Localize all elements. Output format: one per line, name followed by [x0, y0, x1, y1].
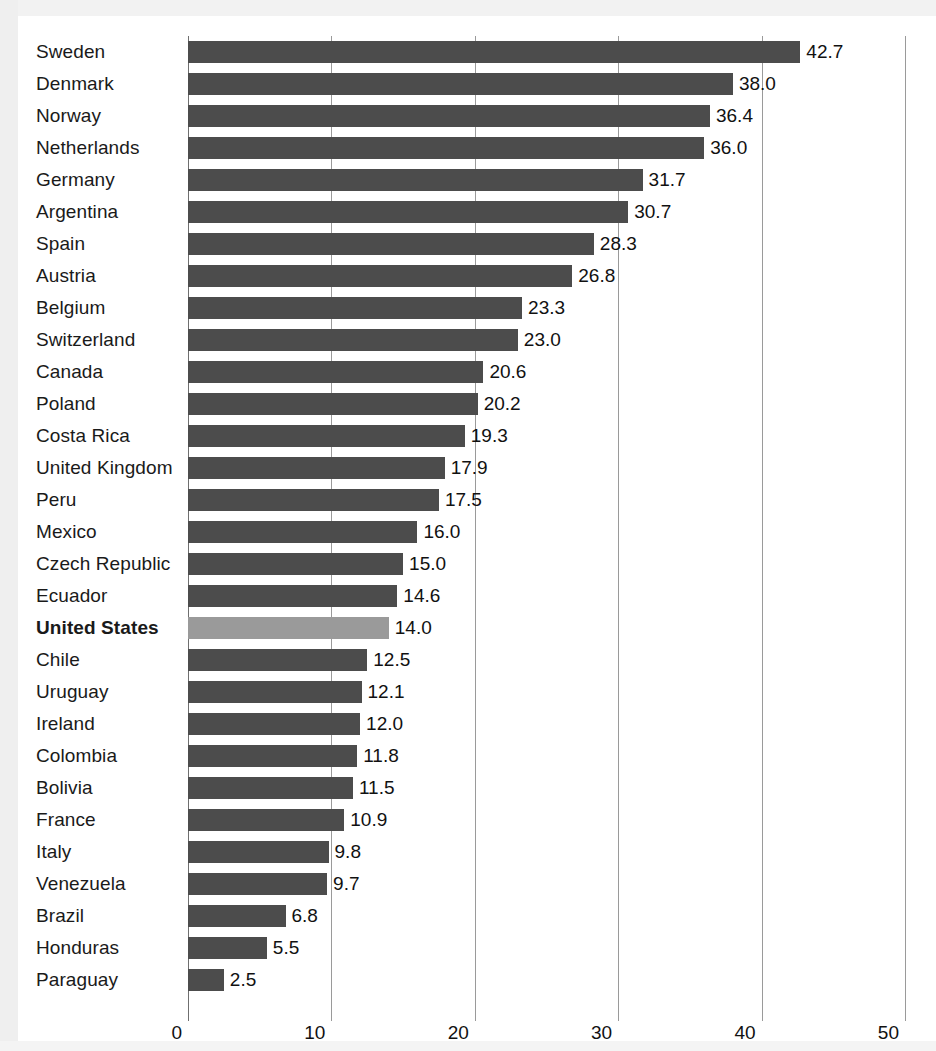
chart-row: Italy9.8	[0, 836, 936, 868]
bar-value-label: 36.4	[716, 100, 753, 132]
category-label: Austria	[36, 260, 96, 292]
bar	[188, 745, 357, 767]
chart-row: Spain28.3	[0, 228, 936, 260]
bar	[188, 585, 397, 607]
x-tick-label: 50	[878, 1022, 905, 1044]
bar-value-label: 30.7	[634, 196, 671, 228]
bar	[188, 713, 360, 735]
bar	[188, 169, 643, 191]
bar-value-label: 12.1	[368, 676, 405, 708]
x-tick-label: 10	[304, 1022, 331, 1044]
bar-value-label: 6.8	[292, 900, 318, 932]
bar	[188, 201, 628, 223]
bar-value-label: 9.8	[335, 836, 361, 868]
category-label: Paraguay	[36, 964, 118, 996]
bar	[188, 73, 733, 95]
x-tick-label: 20	[448, 1022, 475, 1044]
category-label: Sweden	[36, 36, 105, 68]
bar-value-label: 38.0	[739, 68, 776, 100]
bar	[188, 905, 286, 927]
bar-value-label: 42.7	[806, 36, 843, 68]
bar-value-label: 19.3	[471, 420, 508, 452]
category-label: Belgium	[36, 292, 105, 324]
category-label: Denmark	[36, 68, 114, 100]
chart-row: Colombia11.8	[0, 740, 936, 772]
bar-value-label: 14.6	[403, 580, 440, 612]
bar-value-label: 12.5	[373, 644, 410, 676]
bar	[188, 681, 362, 703]
category-label: Poland	[36, 388, 96, 420]
chart-row: United States14.0	[0, 612, 936, 644]
bar	[188, 41, 800, 63]
bar-value-label: 20.6	[489, 356, 526, 388]
bar-value-label: 17.5	[445, 484, 482, 516]
chart-row: Bolivia11.5	[0, 772, 936, 804]
bar-value-label: 36.0	[710, 132, 747, 164]
bar	[188, 233, 594, 255]
bar	[188, 457, 445, 479]
category-label: Netherlands	[36, 132, 140, 164]
category-label: Chile	[36, 644, 80, 676]
bar	[188, 553, 403, 575]
category-label: Canada	[36, 356, 103, 388]
chart-row: Chile12.5	[0, 644, 936, 676]
chart-row: Peru17.5	[0, 484, 936, 516]
chart-row: Ecuador14.6	[0, 580, 936, 612]
category-label: Germany	[36, 164, 115, 196]
category-label: Mexico	[36, 516, 97, 548]
chart-row: France10.9	[0, 804, 936, 836]
chart-row: Paraguay2.5	[0, 964, 936, 996]
chart-row: Austria26.8	[0, 260, 936, 292]
chart-row: Germany31.7	[0, 164, 936, 196]
category-label: Uruguay	[36, 676, 109, 708]
chart-row: Netherlands36.0	[0, 132, 936, 164]
chart-row: Belgium23.3	[0, 292, 936, 324]
bar	[188, 137, 704, 159]
x-tick-label-text: 30	[591, 1022, 618, 1043]
bar-value-label: 17.9	[451, 452, 488, 484]
chart-row: Mexico16.0	[0, 516, 936, 548]
bar	[188, 873, 327, 895]
chart-row: Uruguay12.1	[0, 676, 936, 708]
chart-row: Norway36.4	[0, 100, 936, 132]
bar-chart: Sweden42.7Denmark38.0Norway36.4Netherlan…	[0, 0, 936, 1051]
bar-value-label: 28.3	[600, 228, 637, 260]
bar	[188, 969, 224, 991]
chart-row: Costa Rica19.3	[0, 420, 936, 452]
bar	[188, 617, 389, 639]
category-label: Italy	[36, 836, 71, 868]
category-label: Honduras	[36, 932, 119, 964]
chart-row: Sweden42.7	[0, 36, 936, 68]
x-tick-label-text: 10	[304, 1022, 331, 1043]
chart-row: Argentina30.7	[0, 196, 936, 228]
category-label: Ireland	[36, 708, 95, 740]
bar-value-label: 16.0	[423, 516, 460, 548]
chart-row: Canada20.6	[0, 356, 936, 388]
category-label: France	[36, 804, 96, 836]
bar-value-label: 20.2	[484, 388, 521, 420]
chart-row: Honduras5.5	[0, 932, 936, 964]
chart-row: Czech Republic15.0	[0, 548, 936, 580]
bar	[188, 297, 522, 319]
category-label: United Kingdom	[36, 452, 173, 484]
chart-row: Denmark38.0	[0, 68, 936, 100]
bar-value-label: 12.0	[366, 708, 403, 740]
x-tick-label-text: 50	[878, 1022, 905, 1043]
chart-row: Brazil6.8	[0, 900, 936, 932]
chart-row: Ireland12.0	[0, 708, 936, 740]
chart-row: Poland20.2	[0, 388, 936, 420]
bar	[188, 265, 572, 287]
bar-value-label: 23.0	[524, 324, 561, 356]
category-label: Argentina	[36, 196, 118, 228]
bar	[188, 937, 267, 959]
bar	[188, 777, 353, 799]
category-label: Peru	[36, 484, 77, 516]
bar-value-label: 15.0	[409, 548, 446, 580]
bar	[188, 521, 417, 543]
bar	[188, 393, 478, 415]
x-tick-label: 30	[591, 1022, 618, 1044]
category-label: Bolivia	[36, 772, 93, 804]
category-label: Costa Rica	[36, 420, 130, 452]
category-label: Colombia	[36, 740, 117, 772]
bar-value-label: 26.8	[578, 260, 615, 292]
